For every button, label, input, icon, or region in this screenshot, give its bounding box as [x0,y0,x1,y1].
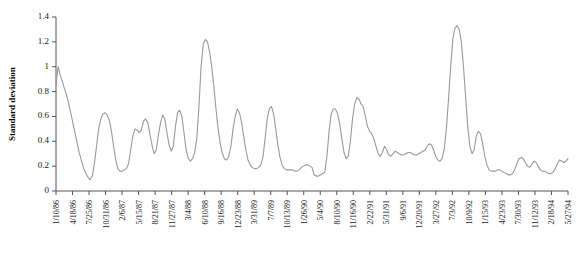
x-tick-label: 3/27/92 [432,200,441,224]
x-tick-label: 1/10/86 [52,200,61,224]
y-axis: 00.20.40.60.811.21.4 [38,11,56,195]
x-tick-label: 9/16/88 [217,200,226,224]
y-tick-label: 1.2 [38,36,49,46]
x-tick-label: 1/15/93 [481,200,490,224]
x-tick-label: 2/22/91 [366,200,375,224]
x-tick-label: 7/25/86 [85,200,94,224]
x-tick-label: 7/7/89 [267,200,276,220]
y-tick-label: 0.8 [38,86,50,96]
x-tick-label: 5/15/87 [135,200,144,224]
x-tick-label: 6/10/88 [201,200,210,224]
chart-container: 00.20.40.60.811.21.4 1/10/864/18/867/25/… [0,0,580,254]
data-series [56,26,568,180]
x-tick-label: 11/27/87 [168,200,177,228]
x-tick-label: 10/31/86 [102,200,111,228]
y-tick-label: 0.2 [38,160,49,170]
x-tick-label: 11/12/93 [531,200,540,228]
x-tick-label: 12/20/91 [415,200,424,228]
x-axis: 1/10/864/18/867/25/8610/31/862/6/875/15/… [52,191,573,228]
y-tick-label: 1.4 [38,11,50,21]
x-tick-label: 10/13/89 [283,200,292,228]
y-tick-label: 0.4 [38,135,50,145]
x-tick-label: 1/26/90 [300,200,309,224]
x-tick-label: 4/18/86 [69,200,78,224]
x-tick-label: 5/4/90 [316,200,325,220]
x-tick-label: 7/30/93 [514,200,523,224]
x-tick-label: 2/18/94 [547,200,556,224]
x-tick-label: 10/9/92 [465,200,474,224]
x-tick-label: 9/6/91 [399,200,408,220]
y-axis-title-text: Standard deviation [7,67,17,141]
x-tick-label: 5/31/91 [382,200,391,224]
x-tick-label: 3/4/88 [184,200,193,220]
x-tick-label: 8/10/90 [333,200,342,224]
x-tick-label: 2/6/87 [118,200,127,220]
x-tick-label: 4/23/93 [498,200,507,224]
y-tick-label: 0.6 [38,110,50,120]
y-tick-label: 0 [45,185,50,195]
x-tick-label: 12/23/88 [234,200,243,228]
x-tick-label: 7/3/92 [448,200,457,220]
y-tick-label: 1 [45,61,50,71]
y-axis-title: Standard deviation [7,67,17,141]
line-chart: 00.20.40.60.811.21.4 1/10/864/18/867/25/… [0,0,580,254]
series-line-standard-deviation [56,26,568,180]
x-tick-label: 8/21/87 [151,200,160,224]
x-tick-label: 5/27/94 [564,200,573,224]
x-tick-label: 3/31/89 [250,200,259,224]
x-tick-label: 11/16/90 [349,200,358,228]
